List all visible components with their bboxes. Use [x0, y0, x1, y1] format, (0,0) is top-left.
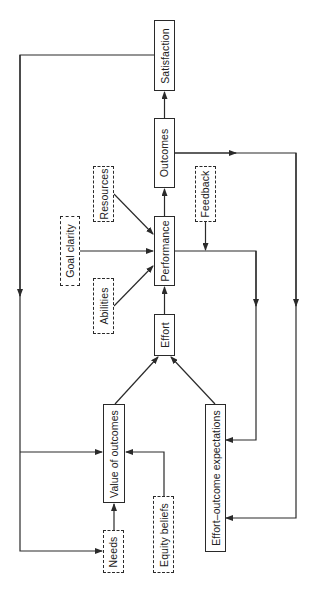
node-label: Needs [108, 536, 120, 567]
node-goal-clarity: Goal clarity [60, 216, 80, 286]
node-performance: Performance [154, 216, 175, 286]
node-label: Performance [159, 220, 171, 281]
node-needs: Needs [103, 530, 124, 573]
node-effort: Effort [154, 314, 175, 356]
node-label: Equity beliefs [158, 503, 170, 567]
node-value-of-outcomes: Value of outcomes [103, 404, 125, 503]
node-feedback: Feedback [195, 166, 216, 222]
node-label: Effort–outcome expectations [210, 410, 222, 546]
node-label: Outcomes [159, 129, 171, 178]
node-label: Effort [159, 322, 171, 348]
node-label: Feedback [200, 171, 212, 218]
node-label: Abilities [98, 287, 110, 324]
node-resources: Resources [93, 166, 114, 222]
node-satisfaction: Satisfaction [154, 20, 175, 91]
node-label: Satisfaction [159, 28, 171, 83]
node-label: Value of outcomes [108, 410, 120, 498]
node-outcomes: Outcomes [154, 118, 175, 188]
node-abilities: Abilities [93, 278, 114, 334]
node-effort-outcome-expectations: Effort–outcome expectations [205, 404, 226, 552]
node-equity-beliefs: Equity beliefs [153, 496, 174, 573]
node-label: Resources [98, 168, 110, 219]
node-label: Goal clarity [64, 224, 76, 278]
